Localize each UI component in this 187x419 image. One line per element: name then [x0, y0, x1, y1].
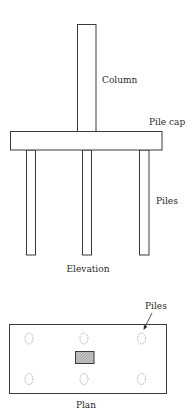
pile-middle [83, 150, 92, 255]
column [78, 25, 97, 132]
pile-cap [11, 132, 163, 151]
elevation-view: Column Pile cap Piles Elevation [11, 25, 186, 275]
pile-left [27, 150, 36, 255]
plan-piles-label: Piles [145, 301, 167, 311]
piles-label: Piles [156, 196, 178, 206]
plan-view: Piles Plan [10, 301, 168, 410]
column-plan-hatched [76, 352, 95, 364]
pile-cap-label: Pile cap [149, 117, 185, 127]
pile-right [140, 150, 150, 255]
elevation-title: Elevation [67, 264, 110, 274]
plan-title: Plan [76, 400, 96, 410]
column-label: Column [102, 75, 138, 85]
pile-foundation-diagram: Column Pile cap Piles Elevation Piles Pl… [0, 0, 187, 419]
